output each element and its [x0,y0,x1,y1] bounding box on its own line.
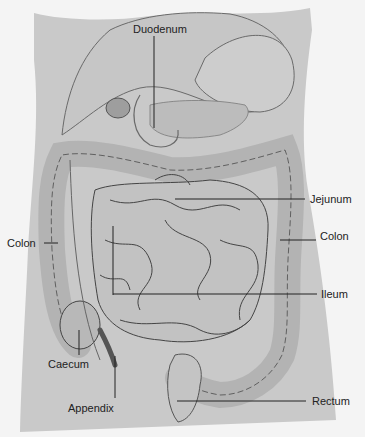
gallbladder [106,98,130,118]
label-colon-right: Colon [320,230,349,242]
label-duodenum: Duodenum [133,23,187,35]
label-rectum: Rectum [312,395,350,407]
anatomy-illustration [0,0,365,437]
label-ileum: Ileum [321,288,348,300]
label-colon-left: Colon [7,237,36,249]
label-caecum: Caecum [48,358,89,370]
label-appendix: Appendix [68,402,114,414]
label-jejunum: Jejunum [310,193,352,205]
intestine-diagram: Duodenum Jejunum Colon Colon Ileum Caecu… [0,0,365,437]
small-intestine [91,180,268,342]
